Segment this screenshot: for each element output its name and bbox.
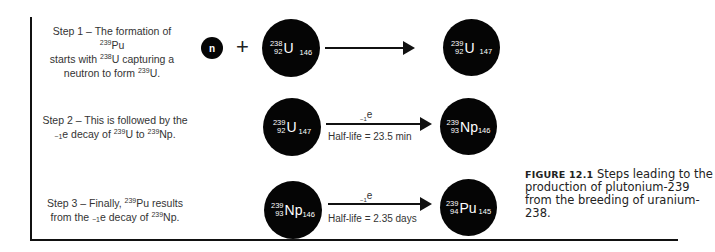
nucleus-u239-reactant: 23992 U 147 [263, 98, 321, 156]
neutron-circle: n [201, 37, 223, 59]
nucleus-np239-product: 23993 Np 146 [440, 98, 497, 155]
plus-sign: + [236, 36, 249, 58]
nucleus-pu239-product: 23994 Pu 145 [440, 179, 497, 236]
nucleus-u239-product: 23992 U 147 [443, 19, 500, 76]
half-life-label: Half-life = 2.35 days [328, 213, 417, 224]
frame-bottom-border [30, 239, 678, 241]
step-3-text: Step 3 – Finally, 239Pu results from the… [40, 196, 190, 224]
beta-particle-label: −1e [360, 109, 372, 122]
half-life-label: Half-life = 23.5 min [328, 131, 412, 142]
step-1-text: Step 1 – The formation of 239Pu starts w… [42, 24, 182, 80]
arrow-head-icon [420, 197, 432, 211]
beta-particle-label: −1e [360, 190, 372, 203]
nucleus-u238: 23892 U 146 [262, 19, 320, 77]
figure-label: FIGURE 12.1 [525, 169, 593, 180]
reaction-3-arrow [328, 203, 422, 205]
arrow-head-icon [420, 117, 432, 131]
arrow-head-icon [403, 41, 415, 55]
figure-caption: FIGURE 12.1 Steps leading to the product… [525, 168, 715, 220]
frame-left-border [30, 17, 32, 241]
reaction-1-arrow [325, 47, 403, 49]
nucleus-np239-reactant: 23993 Np 146 [264, 181, 322, 239]
step-2-text: Step 2 – This is followed by the −1e dec… [40, 113, 190, 141]
reaction-2-arrow [326, 123, 422, 125]
